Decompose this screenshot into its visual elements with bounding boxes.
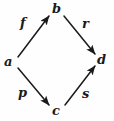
commutative-diagram: a b c d f r p s [0, 0, 114, 121]
node-label-a: a [4, 55, 12, 68]
arrow-c-to-d [65, 66, 95, 105]
edge-label-s: s [82, 87, 89, 100]
edge-label-f: f [20, 16, 26, 29]
edge-label-p: p [18, 86, 27, 99]
node-label-b: b [52, 2, 61, 15]
arrow-b-to-d [64, 16, 95, 54]
edge-label-r: r [82, 17, 89, 30]
node-label-c: c [52, 104, 60, 117]
node-label-d: d [97, 53, 106, 66]
